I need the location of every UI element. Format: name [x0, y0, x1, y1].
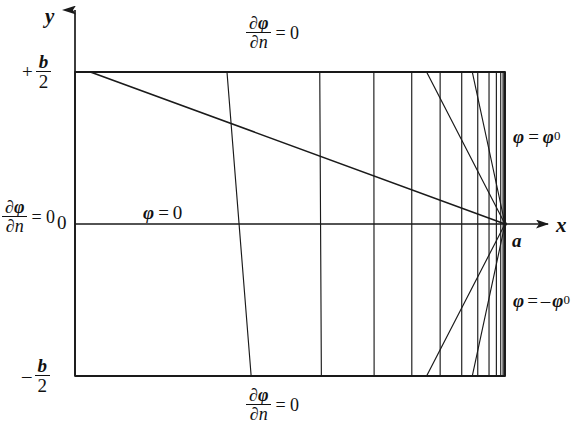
flow-net-figure: y x + b 2 0 – b 2 a: [0, 0, 574, 434]
sink-point-marker: [503, 222, 507, 226]
potential-label-upper-right: φ = φ0: [513, 127, 560, 146]
boundary-condition-bottom: ∂φ ∂n = 0: [246, 386, 299, 423]
tick-label-plus-b-over-2: + b 2: [22, 52, 51, 91]
flow-net-canvas: [0, 0, 574, 434]
tick-label-origin: 0: [57, 213, 67, 232]
boundary-condition-left: ∂φ ∂n = 0: [2, 198, 55, 235]
x-axis-label: x: [556, 215, 567, 236]
coordinate-axes: [75, 10, 548, 376]
point-label-a: a: [512, 231, 522, 250]
y-axis-label: y: [45, 6, 54, 27]
tick-label-minus-b-over-2: – b 2: [22, 356, 50, 395]
boundary-condition-top: ∂φ ∂n = 0: [246, 14, 299, 51]
potential-label-lower-right: φ = – φ0: [513, 291, 570, 310]
potential-label-center: φ = 0: [143, 203, 182, 222]
